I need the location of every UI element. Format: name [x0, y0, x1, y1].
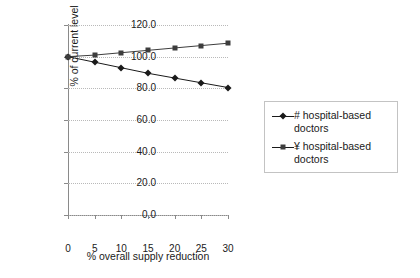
data-point-marker	[224, 84, 231, 91]
data-point-marker	[92, 53, 97, 58]
legend-marker-diamond-icon	[272, 110, 294, 122]
data-point-marker	[172, 45, 177, 50]
x-axis-tick	[68, 215, 69, 219]
data-point-marker	[146, 48, 151, 53]
legend-marker-square-icon	[272, 141, 294, 153]
x-axis-tick	[148, 215, 149, 219]
data-point-marker	[119, 50, 124, 55]
x-axis-tick	[121, 215, 122, 219]
x-axis-title: % overall supply reduction	[58, 250, 238, 262]
chart-container: % of current level 0.020.040.060.080.010…	[0, 0, 420, 278]
data-point-marker	[66, 54, 71, 59]
legend-label: # hospital-based doctors	[294, 109, 391, 134]
x-axis-tick	[95, 215, 96, 219]
x-axis-tick	[228, 215, 229, 219]
chart-legend: # hospital-based doctors ¥ hospital-base…	[264, 101, 398, 173]
plot-area: 0.020.040.060.080.0100.0120.005101520253…	[68, 25, 228, 215]
x-axis-tick	[175, 215, 176, 219]
legend-item-hospital-doctor-spend: ¥ hospital-based doctors	[272, 140, 391, 165]
x-axis-tick	[201, 215, 202, 219]
legend-item-hospital-doctor-count: # hospital-based doctors	[272, 109, 391, 134]
data-point-marker	[226, 41, 231, 46]
legend-label: ¥ hospital-based doctors	[294, 140, 391, 165]
data-point-marker	[199, 43, 204, 48]
